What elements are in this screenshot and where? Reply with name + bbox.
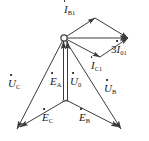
label-i-b1: IB1 bbox=[64, 4, 75, 15]
overdot-marker bbox=[64, 0, 66, 2]
overdot-marker bbox=[72, 72, 74, 74]
phasor-diagram-canvas bbox=[0, 0, 149, 141]
overdot-marker bbox=[51, 72, 53, 74]
vector-rhombus-top-right-line bbox=[95, 18, 128, 38]
overdot-marker bbox=[91, 56, 93, 58]
origin-node-marker bbox=[61, 35, 67, 41]
overdot-marker bbox=[80, 108, 82, 110]
phasor-diagram-figure: IB1 IC1 3I01 UC EA U0 UB EC EB bbox=[0, 0, 149, 141]
label-e-a: EA bbox=[50, 76, 61, 87]
label-u-0: U0 bbox=[70, 76, 81, 87]
overdot-marker bbox=[43, 108, 45, 110]
overdot-marker bbox=[10, 74, 12, 76]
label-u-b: UB bbox=[104, 83, 116, 94]
label-3i-01: 3I01 bbox=[111, 44, 127, 55]
label-i-c1: IC1 bbox=[91, 60, 102, 71]
vector-i-b1-line bbox=[64, 18, 95, 38]
label-e-c: EC bbox=[42, 112, 53, 123]
label-u-c: UC bbox=[8, 78, 20, 89]
overdot-marker bbox=[116, 40, 118, 42]
overdot-marker bbox=[106, 79, 108, 81]
label-e-b: EB bbox=[79, 112, 90, 123]
